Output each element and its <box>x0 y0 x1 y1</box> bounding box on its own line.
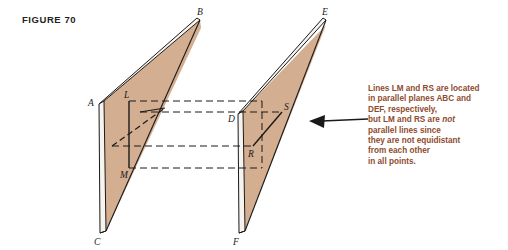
label-F: F <box>232 237 239 247</box>
annotation-line-4: but LM and RS are not <box>368 115 508 125</box>
callout-arrow-shaft <box>322 119 368 121</box>
plane-ABC-group <box>99 18 201 233</box>
label-D: D <box>227 114 235 124</box>
annotation-line-3: DEF, respectively, <box>368 105 508 115</box>
annotation-line-8: in all points. <box>368 157 508 167</box>
label-B: B <box>197 7 203 17</box>
annotation-line-7: from each other <box>368 146 508 156</box>
annotation-line-2: in parallel planes ABC and <box>368 94 508 104</box>
label-S: S <box>284 102 289 112</box>
label-L: L <box>123 90 129 100</box>
label-A: A <box>87 98 94 108</box>
plane-DEF-group <box>238 18 326 233</box>
annotation-line-5: parallel lines since <box>368 126 508 136</box>
annotation-line-4-text: but LM and RS are <box>368 115 442 124</box>
label-R: R <box>247 149 254 159</box>
callout-arrow <box>309 115 368 128</box>
plane-ABC-face-body <box>104 25 201 231</box>
label-E: E <box>321 7 328 17</box>
annotation-line-1: Lines LM and RS are located <box>368 84 508 94</box>
label-C: C <box>94 237 101 247</box>
label-M: M <box>119 170 129 180</box>
annotation-emphasis-not: not <box>442 115 455 124</box>
callout-arrow-head <box>309 115 325 128</box>
annotation-text-block: Lines LM and RS are located in parallel … <box>368 84 508 167</box>
figure-container: FIGURE 70 <box>0 0 508 250</box>
annotation-line-6: they are not equidistant <box>368 136 508 146</box>
